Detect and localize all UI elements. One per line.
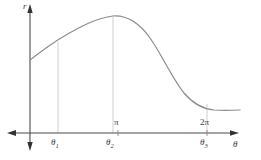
dropline-group xyxy=(58,17,207,133)
tick-label-theta1-sub: 1 xyxy=(55,142,58,149)
tick-label-pi: π xyxy=(114,118,119,127)
tick-label-theta2: θ2 xyxy=(106,138,114,149)
y-axis-down-arrow-icon xyxy=(27,142,32,151)
y-axis-label: r xyxy=(23,2,27,11)
y-axis-up-arrow-icon xyxy=(27,4,32,13)
x-axis-left-arrow-icon xyxy=(7,130,16,136)
x-axis xyxy=(7,130,239,136)
y-axis xyxy=(27,4,32,151)
tick-label-2pi: 2π xyxy=(200,118,209,127)
r-theta-curve xyxy=(30,16,240,110)
x-axis-label: θ xyxy=(233,140,237,149)
tick-label-theta3-sub: 3 xyxy=(204,142,207,149)
polar-radius-vs-theta-figure: r θ θ1 θ2 θ3 π 2π xyxy=(0,0,261,160)
tick-label-theta1: θ1 xyxy=(51,138,59,149)
tick-label-theta3: θ3 xyxy=(200,138,208,149)
x-axis-right-arrow-icon xyxy=(230,130,239,136)
tick-label-theta2-sub: 2 xyxy=(110,142,113,149)
plot-canvas xyxy=(0,0,261,160)
